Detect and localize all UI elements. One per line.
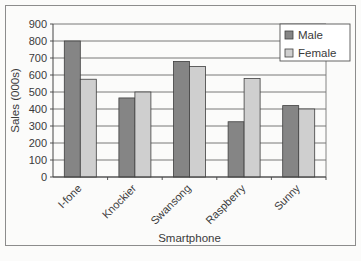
x-tick-label: I-fone	[55, 182, 83, 210]
y-tick-label: 900	[29, 18, 47, 30]
bar-male-i-fone	[64, 41, 80, 177]
y-tick-label: 500	[29, 86, 47, 98]
bar-female-i-fone	[80, 79, 96, 177]
bar-female-swansong	[190, 67, 206, 178]
bar-female-raspberry	[244, 78, 260, 177]
grouped-bar-chart: 0100200300400500600700800900I-foneKnocki…	[0, 0, 361, 261]
y-tick-label: 200	[29, 137, 47, 149]
bar-female-knockier	[135, 92, 151, 177]
legend-label-female: Female	[298, 47, 336, 59]
bar-male-sunny	[283, 106, 299, 177]
bar-male-raspberry	[228, 122, 244, 177]
x-tick-label: Raspberry	[203, 182, 248, 227]
legend-swatch-female	[285, 49, 293, 57]
bar-female-sunny	[299, 109, 315, 177]
y-tick-label: 100	[29, 154, 47, 166]
legend-swatch-male	[285, 31, 293, 39]
bar-male-swansong	[174, 61, 190, 177]
x-tick-label: Swansong	[148, 182, 193, 227]
y-tick-label: 700	[29, 52, 47, 64]
y-tick-label: 800	[29, 35, 47, 47]
y-tick-label: 600	[29, 69, 47, 81]
y-tick-label: 400	[29, 103, 47, 115]
y-tick-label: 300	[29, 120, 47, 132]
legend-label-male: Male	[298, 29, 323, 41]
x-tick-label: Knockier	[100, 182, 139, 221]
y-tick-label: 0	[41, 171, 47, 183]
x-axis-title: Smartphone	[158, 232, 221, 244]
bar-male-knockier	[119, 98, 135, 177]
y-axis-title: Sales (000s)	[9, 68, 21, 133]
x-tick-label: Sunny	[272, 182, 303, 213]
